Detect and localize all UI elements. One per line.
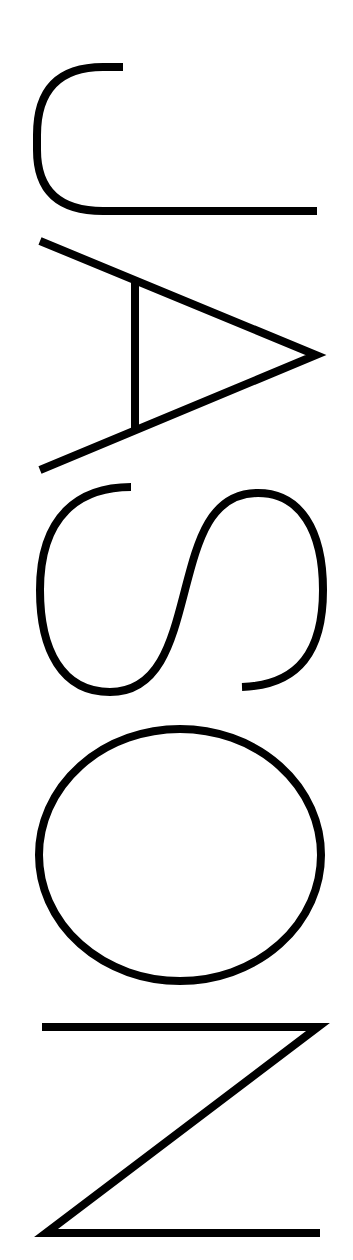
jason-wordmark-logo: JASON	[0, 0, 353, 1260]
letter-j	[37, 67, 317, 211]
letter-o	[39, 729, 321, 981]
letter-n	[42, 1027, 320, 1233]
letter-a	[40, 241, 316, 470]
letter-s	[40, 487, 323, 692]
